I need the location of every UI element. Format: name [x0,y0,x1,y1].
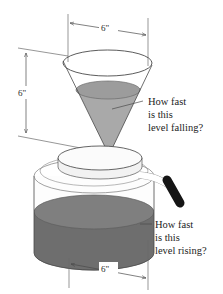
cone-liquid-surface [76,81,140,99]
handle-bar [167,180,180,203]
cylinder-diameter-label: 6" [101,264,110,274]
related-rates-figure: 6" 6" [0,0,223,294]
cone-rim-ellipse [63,50,152,76]
lower-callout-line2: is this [155,232,180,243]
cone-diameter-label: 6" [101,23,110,33]
pot-handle [167,180,180,203]
pot-lid [58,146,142,179]
upper-callout-line3: level falling? [148,122,203,133]
figure-canvas: 6" 6" [0,0,223,294]
lower-callout-line3: level rising? [155,245,207,256]
cone-diameter-dimension: 6" [68,14,148,66]
upper-callout-line2: is this [148,109,173,120]
upper-callout-line1: How fast [148,96,186,107]
lid-top [58,146,142,170]
cone-height-label: 6" [18,88,27,98]
cylinder-liquid-surface [34,195,154,229]
upper-callout: How fast is this level falling? [148,96,203,133]
cylinder-liquid-group [30,195,160,272]
cone-height-ext-top [18,48,68,56]
lower-callout-line1: How fast [155,219,193,230]
lower-callout: How fast is this level rising? [155,219,207,256]
